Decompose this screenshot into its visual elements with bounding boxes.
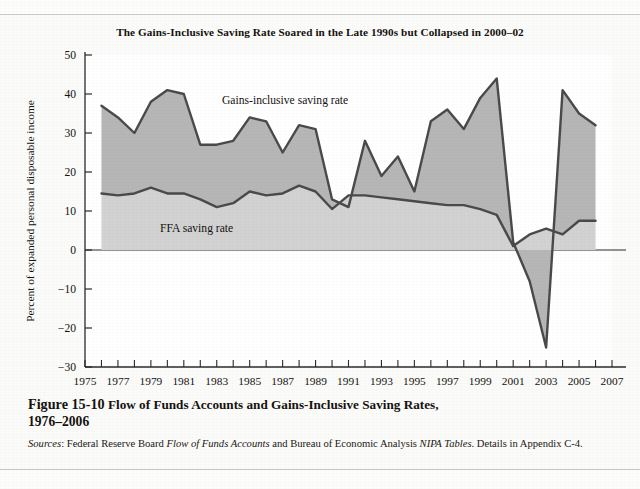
x-axis-tick-label: 1989: [304, 375, 327, 387]
y-axis-tick-label: 40: [64, 88, 76, 101]
ffa-series-label: FFA saving rate: [160, 222, 233, 235]
y-axis-tick-label: 30: [64, 127, 76, 140]
sources-text-a: : Federal Reserve Board: [61, 438, 166, 449]
sources-italic-a: Flow of Funds Accounts: [166, 438, 269, 449]
x-axis-tick-label: 1979: [139, 375, 162, 387]
y-axis-tick-label: 20: [64, 166, 76, 179]
x-axis-tick-label: 2005: [568, 375, 591, 387]
chart-plot-area: −30−20−100102030405019751977197919811983…: [0, 44, 640, 394]
figure-caption-text: Flow of Funds Accounts and Gains-Inclusi…: [108, 397, 438, 412]
saving-rates-area-chart: −30−20−100102030405019751977197919811983…: [0, 44, 640, 394]
x-axis-tick-label: 2007: [601, 375, 624, 387]
y-axis-tick-label: −10: [58, 283, 76, 296]
y-axis-title: Percent of expanded personal disposable …: [24, 100, 36, 322]
y-axis-tick-label: 50: [64, 49, 76, 62]
x-axis-tick-label: 2003: [535, 375, 558, 387]
figure-caption: Figure 15-10 Flow of Funds Accounts and …: [28, 396, 618, 431]
x-axis-tick-label: 1997: [436, 375, 459, 387]
figure-number: Figure 15-10: [28, 396, 105, 412]
x-axis-tick-label: 1975: [74, 375, 97, 387]
x-axis-tick-label: 1981: [172, 375, 195, 387]
chart-title: The Gains-Inclusive Saving Rate Soared i…: [0, 26, 640, 38]
x-axis-tick-label: 1983: [205, 375, 228, 387]
y-axis-tick-label: 0: [70, 244, 76, 257]
sources-text-b: and Bureau of Economic Analysis: [270, 438, 420, 449]
x-axis-tick-label: 1987: [271, 375, 294, 387]
figure-page: The Gains-Inclusive Saving Rate Soared i…: [0, 0, 640, 489]
figure-caption-years: 1976–2006: [28, 413, 618, 431]
sources-label: Sources: [28, 438, 61, 449]
x-axis-tick-label: 1991: [337, 375, 360, 387]
x-axis-tick-label: 1985: [238, 375, 261, 387]
y-axis-tick-label: −20: [58, 322, 76, 335]
x-axis-tick-label: 2001: [502, 375, 525, 387]
x-axis-tick-label: 1993: [370, 375, 393, 387]
figure-sources: Sources: Federal Reserve Board Flow of F…: [28, 437, 608, 452]
sources-italic-b: NIPA Tables: [420, 438, 472, 449]
x-axis-tick-label: 1995: [403, 375, 426, 387]
y-axis-tick-label: −30: [58, 361, 76, 374]
y-axis-tick-label: 10: [64, 205, 76, 218]
sources-text-c: . Details in Appendix C-4.: [472, 438, 583, 449]
x-axis-tick-label: 1977: [107, 375, 130, 387]
gains-inclusive-series-label: Gains-inclusive saving rate: [222, 94, 348, 107]
x-axis-tick-label: 1999: [469, 375, 492, 387]
